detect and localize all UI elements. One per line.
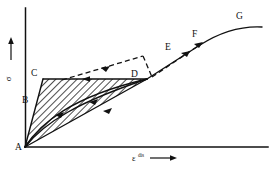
stress-strain-diagram: σ ε dis bbox=[0, 0, 271, 169]
point-label-E: E bbox=[165, 42, 171, 52]
point-label-D: D bbox=[131, 69, 138, 79]
point-label-B: B bbox=[22, 95, 28, 105]
x-axis-label: ε bbox=[132, 153, 136, 163]
y-axis-label: σ bbox=[3, 76, 13, 81]
point-label-A: A bbox=[15, 142, 22, 152]
point-label-F: F bbox=[192, 29, 197, 39]
point-label-C: C bbox=[31, 68, 37, 78]
point-label-G: G bbox=[236, 11, 243, 21]
x-axis-label-superscript: dis bbox=[138, 152, 144, 158]
